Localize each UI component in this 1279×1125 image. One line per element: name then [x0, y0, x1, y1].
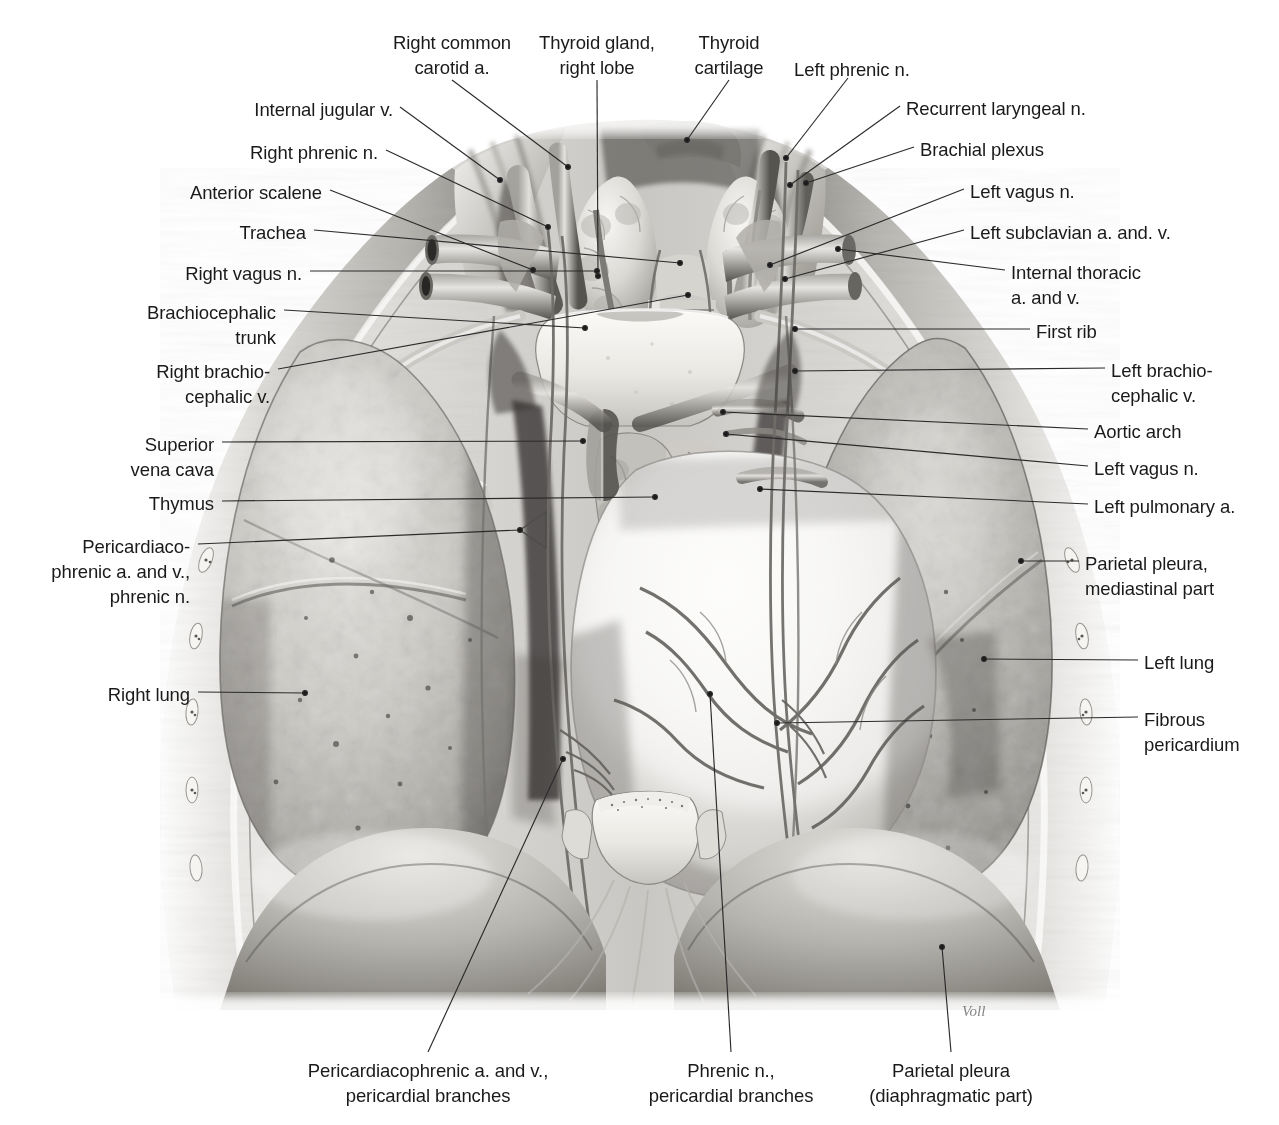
- label-thyroid-gland-right-lobe: Thyroid gland, right lobe: [539, 30, 655, 80]
- label-internal-thoracic-a-v: Internal thoracic a. and v.: [1011, 260, 1141, 310]
- label-trachea: Trachea: [240, 220, 306, 245]
- label-recurrent-laryngeal-n: Recurrent laryngeal n.: [906, 96, 1086, 121]
- label-left-phrenic-n-top: Left phrenic n.: [794, 57, 910, 82]
- label-aortic-arch: Aortic arch: [1094, 419, 1181, 444]
- label-internal-jugular-v: Internal jugular v.: [254, 97, 393, 122]
- label-left-vagus-n-top: Left vagus n.: [970, 179, 1075, 204]
- label-left-lung: Left lung: [1144, 650, 1214, 675]
- label-first-rib: First rib: [1036, 319, 1097, 344]
- label-right-brachiocephalic-v: Right brachio- cephalic v.: [156, 359, 270, 409]
- label-right-vagus-n: Right vagus n.: [185, 261, 302, 286]
- label-parietal-pleura-mediastinal: Parietal pleura, mediastinal part: [1085, 551, 1214, 601]
- label-superior-vena-cava: Superior vena cava: [131, 432, 214, 482]
- label-right-common-carotid: Right common carotid a.: [393, 30, 511, 80]
- label-left-vagus-n-mid: Left vagus n.: [1094, 456, 1199, 481]
- anatomical-figure: Right common carotid a.Thyroid gland, ri…: [0, 0, 1279, 1125]
- label-phrenic-n-pericardial: Phrenic n., pericardial branches: [649, 1058, 814, 1108]
- label-pericardiacophrenic-branches: Pericardiacophrenic a. and v., pericardi…: [308, 1058, 548, 1108]
- label-left-subclavian-a-v: Left subclavian a. and. v.: [970, 220, 1171, 245]
- label-right-phrenic-n: Right phrenic n.: [250, 140, 378, 165]
- label-fibrous-pericardium: Fibrous pericardium: [1144, 707, 1240, 757]
- label-left-pulmonary-a: Left pulmonary a.: [1094, 494, 1235, 519]
- label-left-brachiocephalic-v: Left brachio- cephalic v.: [1111, 358, 1213, 408]
- label-parietal-pleura-diaphragm: Parietal pleura (diaphragmatic part): [869, 1058, 1033, 1108]
- label-pericardiacophrenic-phrenic: Pericardiaco- phrenic a. and v., phrenic…: [51, 534, 190, 609]
- label-thymus: Thymus: [149, 491, 214, 516]
- label-thyroid-cartilage: Thyroid cartilage: [694, 30, 763, 80]
- artist-signature: Voll: [962, 1003, 985, 1020]
- label-anterior-scalene: Anterior scalene: [190, 180, 322, 205]
- label-brachiocephalic-trunk: Brachiocephalic trunk: [147, 300, 276, 350]
- label-brachial-plexus: Brachial plexus: [920, 137, 1044, 162]
- label-right-lung: Right lung: [108, 682, 190, 707]
